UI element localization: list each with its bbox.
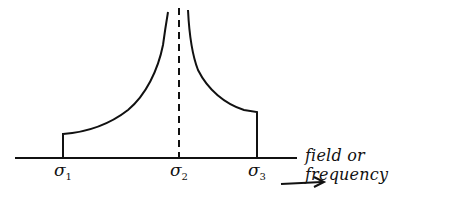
diagram-canvas: σ1 σ2 σ3 field or frequency bbox=[0, 0, 452, 197]
lineshape-right-branch bbox=[188, 10, 257, 158]
marker-sigma-3: σ3 bbox=[248, 160, 266, 182]
lineshape-left-branch bbox=[63, 12, 168, 158]
marker-sigma-2: σ2 bbox=[170, 160, 188, 182]
axis-label: field or frequency bbox=[305, 146, 452, 184]
marker-sigma-1: σ1 bbox=[54, 160, 72, 182]
